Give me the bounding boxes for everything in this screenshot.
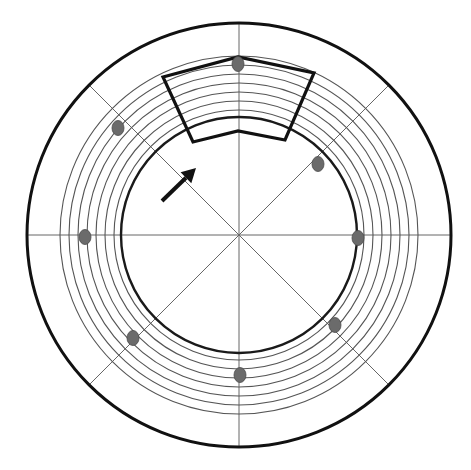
dot-lower-right <box>329 318 341 333</box>
dot-lower-left <box>127 331 139 346</box>
dot-bottom <box>234 368 246 383</box>
arrow-icon <box>162 168 196 201</box>
dot-right <box>352 231 364 246</box>
dot-top <box>232 57 244 72</box>
dot-left <box>79 230 91 245</box>
ring-diagram <box>0 0 471 470</box>
arrow-shaft <box>162 178 186 201</box>
dot-upper-right <box>312 157 324 172</box>
dot-upper-left <box>112 121 124 136</box>
diagram-canvas <box>0 0 471 470</box>
